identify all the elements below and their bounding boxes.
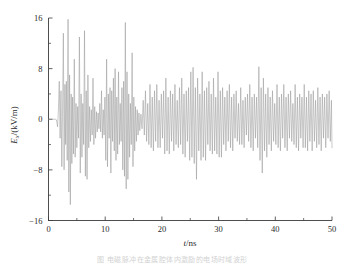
x-axis-title: t/ns	[183, 238, 197, 248]
x-tick-label: 50	[328, 224, 337, 234]
svg-text:t/ns: t/ns	[183, 238, 197, 248]
x-tick-label: 30	[214, 224, 223, 234]
y-axis-tick-labels: −16−80816	[29, 13, 42, 226]
x-tick-label: 0	[46, 224, 50, 234]
y-tick-label: 0	[38, 114, 42, 124]
x-tick-label: 20	[158, 224, 167, 234]
signal-trace	[49, 19, 333, 204]
figure-caption: 图 电磁脉冲在金属腔体内激励的电场时域波形	[0, 254, 345, 266]
svg-text:Ex/(kV/m): Ex/(kV/m)	[9, 106, 20, 144]
y-axis-title: Ex/(kV/m)	[9, 106, 20, 144]
x-axis-tick-labels: 01020304050	[46, 224, 336, 234]
y-tick-label: 8	[38, 64, 42, 74]
y-tick-label: −8	[33, 165, 42, 175]
figure-container: −16−80816 01020304050 Ex/(kV/m) t/ns 图 电…	[0, 0, 345, 266]
y-tick-label: 16	[34, 13, 43, 23]
waveform-chart: −16−80816 01020304050 Ex/(kV/m) t/ns	[0, 0, 345, 266]
x-tick-label: 40	[271, 224, 280, 234]
y-tick-label: −16	[29, 216, 42, 226]
x-tick-label: 10	[101, 224, 110, 234]
